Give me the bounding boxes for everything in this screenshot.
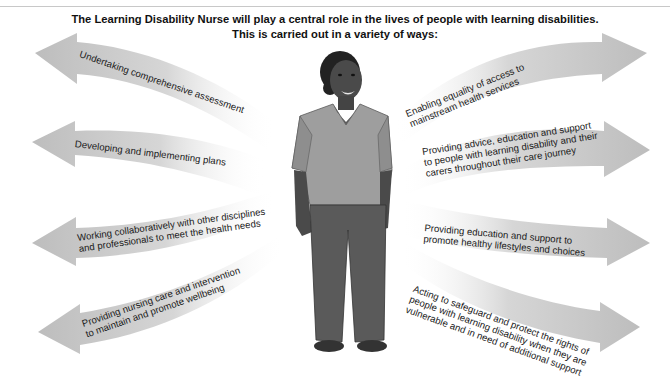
nurse-figure xyxy=(292,51,392,352)
arrow-left-2 xyxy=(32,121,265,196)
